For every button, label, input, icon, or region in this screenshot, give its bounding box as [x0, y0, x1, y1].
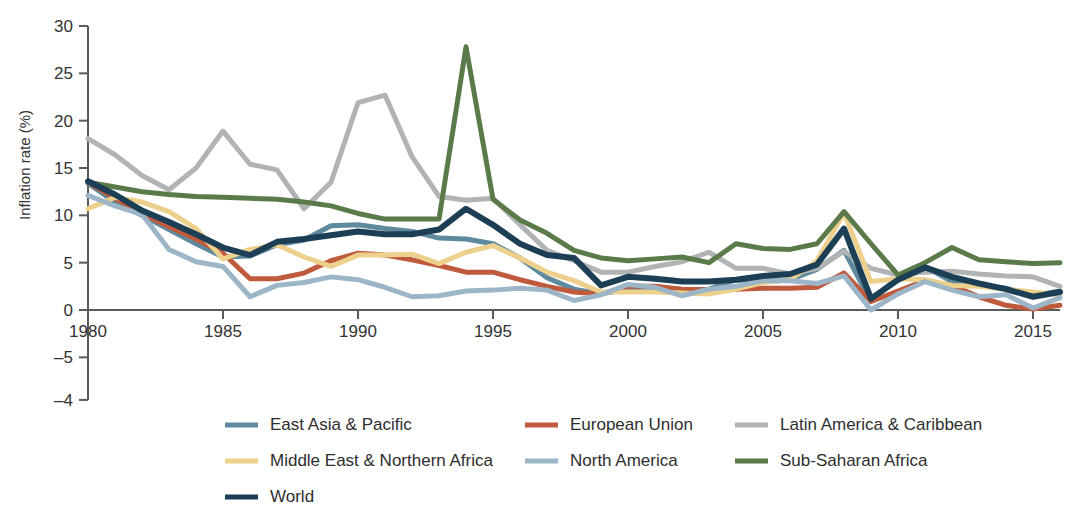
legend-label-east-asia-and-pacific: East Asia & Pacific	[270, 415, 412, 434]
chart-axes	[88, 26, 1060, 400]
y-axis-ticks: 302520151050–5–4	[54, 17, 88, 410]
legend-item-middle-east-and-northern-africa[interactable]: Middle East & Northern Africa	[225, 451, 494, 470]
legend-item-latin-america-and-caribbean[interactable]: Latin America & Caribbean	[735, 415, 982, 434]
y-tick-label: 30	[54, 17, 73, 36]
y-tick-label: 20	[54, 112, 73, 131]
legend-label-middle-east-and-northern-africa: Middle East & Northern Africa	[270, 451, 494, 470]
series-line-sub-saharan-africa	[88, 47, 1060, 275]
y-tick-label: 25	[54, 64, 73, 83]
chart-legend: East Asia & PacificEuropean UnionLatin A…	[225, 415, 982, 506]
x-tick-label: 1995	[474, 322, 512, 341]
y-tick-label: 0	[64, 301, 73, 320]
y-tick-label: –5	[54, 348, 73, 367]
legend-label-world: World	[270, 487, 314, 506]
x-tick-label: 2005	[744, 322, 782, 341]
x-tick-label: 1980	[69, 322, 107, 341]
y-axis-title: Inflation rate (%)	[16, 110, 33, 220]
legend-item-european-union[interactable]: European Union	[525, 415, 693, 434]
inflation-rate-line-chart: 302520151050–5–4 19801985199019952000200…	[0, 0, 1090, 518]
legend-label-european-union: European Union	[570, 415, 693, 434]
y-tick-label: 5	[64, 254, 73, 273]
legend-label-latin-america-and-caribbean: Latin America & Caribbean	[780, 415, 982, 434]
y-tick-label: 15	[54, 159, 73, 178]
x-tick-label: 2000	[609, 322, 647, 341]
legend-item-north-america[interactable]: North America	[525, 451, 678, 470]
y-tick-label: 10	[54, 206, 73, 225]
series-lines	[88, 47, 1060, 310]
x-tick-label: 2015	[1014, 322, 1052, 341]
legend-item-world[interactable]: World	[225, 487, 314, 506]
x-tick-label: 2010	[879, 322, 917, 341]
x-axis-ticks: 19801985199019952000200520102015	[69, 310, 1052, 341]
chart-canvas: 302520151050–5–4 19801985199019952000200…	[0, 0, 1090, 518]
legend-item-sub-saharan-africa[interactable]: Sub-Saharan Africa	[735, 451, 928, 470]
legend-label-north-america: North America	[570, 451, 678, 470]
x-tick-label: 1990	[339, 322, 377, 341]
y-axis-title-text: Inflation rate (%)	[16, 110, 33, 220]
x-tick-label: 1985	[204, 322, 242, 341]
legend-label-sub-saharan-africa: Sub-Saharan Africa	[780, 451, 928, 470]
y-tick-label: –4	[54, 391, 73, 410]
series-line-european-union	[88, 182, 1060, 309]
legend-item-east-asia-and-pacific[interactable]: East Asia & Pacific	[225, 415, 412, 434]
